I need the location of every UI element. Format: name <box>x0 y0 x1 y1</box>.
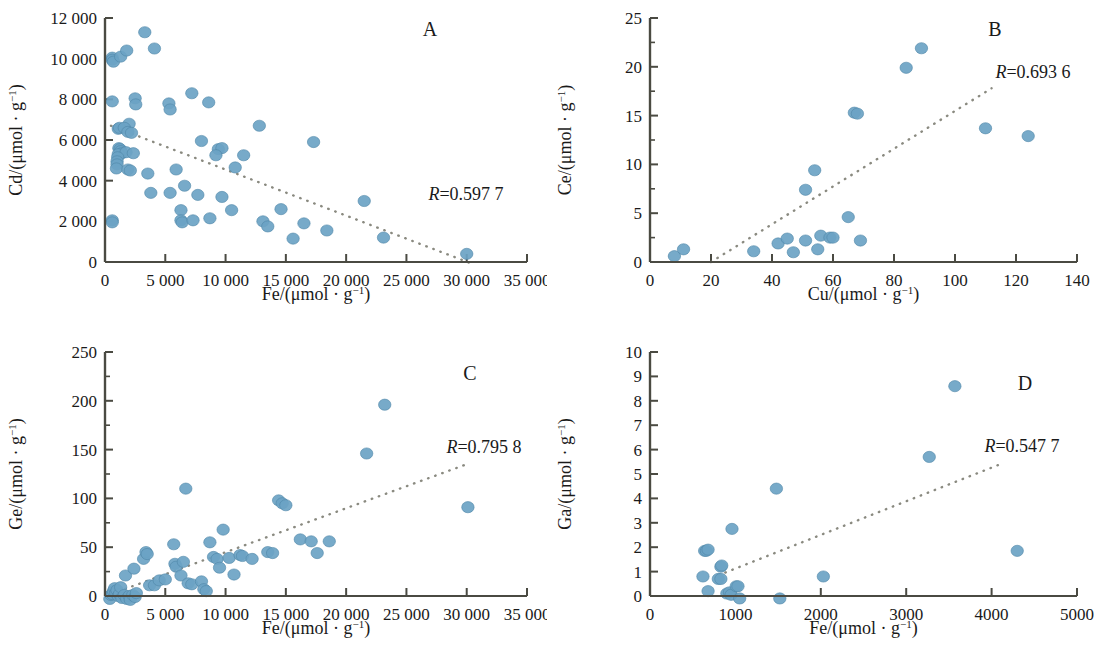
x-tick-label: 10 000 <box>202 271 249 290</box>
y-tick-label: 10 <box>625 155 642 174</box>
data-point <box>204 537 216 548</box>
data-point <box>851 108 863 119</box>
correlation-label: R=0.795 8 <box>445 437 521 457</box>
data-point <box>733 593 745 604</box>
x-axis-title: Fe/(μmol · g−1) <box>262 618 370 639</box>
data-point <box>377 232 389 243</box>
data-point <box>716 560 728 571</box>
y-tick-label: 25 <box>625 9 642 28</box>
y-tick-label: 6 000 <box>59 131 97 150</box>
panel-letter: B <box>988 18 1001 40</box>
data-point <box>280 500 292 511</box>
data-point <box>142 168 154 179</box>
x-tick-label: 35 000 <box>504 605 547 624</box>
y-tick-label: 15 <box>625 107 642 126</box>
data-point <box>305 536 317 547</box>
y-tick-label: 0 <box>634 253 643 272</box>
data-point <box>311 547 323 558</box>
data-point <box>159 574 171 585</box>
correlation-label: R=0.547 7 <box>983 436 1059 456</box>
data-point <box>187 215 199 226</box>
y-tick-label: 150 <box>72 441 98 460</box>
x-tick-label: 1000 <box>718 605 752 624</box>
x-tick-label: 0 <box>101 271 110 290</box>
x-tick-label: 35 000 <box>504 271 547 290</box>
data-point <box>237 150 249 161</box>
panel-letter: C <box>463 362 476 384</box>
data-point <box>799 235 811 246</box>
data-point <box>106 217 118 228</box>
data-point <box>697 571 709 582</box>
data-point <box>817 571 829 582</box>
y-tick-label: 5 <box>634 465 643 484</box>
data-point <box>854 235 866 246</box>
data-point <box>180 483 192 494</box>
data-point <box>842 212 854 223</box>
panel-a-plot: 02 0004 0006 0008 00010 00012 00005 0001… <box>0 0 547 332</box>
trendline <box>718 464 1000 575</box>
correlation-label: R=0.693 6 <box>994 62 1070 82</box>
data-point <box>677 244 689 255</box>
data-point <box>1011 545 1023 556</box>
data-point <box>228 569 240 580</box>
data-point <box>787 247 799 258</box>
data-point <box>770 483 782 494</box>
data-point <box>949 381 961 392</box>
data-point <box>223 552 235 563</box>
y-tick-label: 6 <box>634 441 643 460</box>
data-point <box>462 502 474 513</box>
data-point <box>204 213 216 224</box>
data-point <box>110 163 122 174</box>
data-point <box>294 534 306 545</box>
scatter-points <box>106 27 473 260</box>
x-tick-label: 5000 <box>1060 605 1094 624</box>
correlation-label: R=0.597 7 <box>427 184 503 204</box>
x-tick-label: 0 <box>646 605 655 624</box>
data-point <box>358 195 370 206</box>
y-tick-label: 7 <box>634 416 643 435</box>
data-point <box>809 165 821 176</box>
data-point <box>979 123 991 134</box>
data-point <box>799 184 811 195</box>
y-axis-title: Cd/(μmol · g−1) <box>6 84 27 195</box>
panel-letter: A <box>423 18 438 40</box>
y-tick-label: 200 <box>72 392 98 411</box>
x-tick-label: 20 <box>703 271 720 290</box>
data-point <box>323 536 335 547</box>
y-tick-label: 12 000 <box>50 9 97 28</box>
data-point <box>774 593 786 604</box>
data-point <box>748 246 760 257</box>
y-axis-title: Ga/(μmol · g−1) <box>555 418 576 529</box>
data-point <box>125 127 137 138</box>
data-point <box>170 164 182 175</box>
y-tick-label: 1 <box>634 563 643 582</box>
data-point <box>726 523 738 534</box>
x-tick-label: 120 <box>1003 271 1029 290</box>
x-tick-label: 5 000 <box>146 605 184 624</box>
scatter-points <box>668 43 1034 262</box>
data-point <box>923 451 935 462</box>
y-axis-title: Ce/(μmol · g−1) <box>555 85 576 195</box>
y-tick-label: 0 <box>89 253 98 272</box>
data-point <box>1022 130 1034 141</box>
scatter-points <box>104 399 474 605</box>
data-point <box>178 180 190 191</box>
data-point <box>145 187 157 198</box>
y-tick-label: 0 <box>634 587 643 606</box>
data-point <box>379 399 391 410</box>
y-tick-label: 4 000 <box>59 172 97 191</box>
data-point <box>177 556 189 567</box>
data-point <box>287 233 299 244</box>
x-axis-title: Fe/(μmol · g−1) <box>809 618 917 639</box>
data-point <box>213 562 225 573</box>
x-tick-label: 0 <box>101 605 110 624</box>
data-point <box>812 244 824 255</box>
x-tick-label: 10 000 <box>202 605 249 624</box>
data-point <box>128 563 140 574</box>
data-point <box>246 553 258 564</box>
data-point <box>298 218 310 229</box>
y-tick-label: 8 <box>634 392 643 411</box>
data-point <box>266 547 278 558</box>
data-point <box>164 187 176 198</box>
y-tick-label: 20 <box>625 58 642 77</box>
